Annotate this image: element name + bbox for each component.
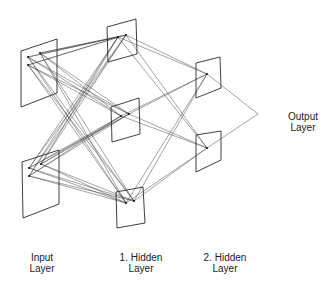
connection-line <box>207 114 258 148</box>
connection-line <box>29 114 129 176</box>
connection-line <box>29 116 121 168</box>
connection-line <box>126 74 207 203</box>
neural-network-diagram <box>0 0 328 289</box>
input-node <box>28 167 30 169</box>
hidden2-layer-label: 2. Hidden Layer <box>195 252 255 274</box>
input-node <box>28 175 30 177</box>
hidden2-node <box>206 73 208 75</box>
input-layer-label-line2: Layer <box>12 263 72 274</box>
input-layer-label: Input Layer <box>12 252 72 274</box>
output-layer-label: Output Layer <box>273 111 328 133</box>
input-node <box>39 52 41 54</box>
connection-line <box>28 65 126 203</box>
hidden1-layer-label: 1. Hidden Layer <box>111 252 171 274</box>
connection-line <box>126 148 207 203</box>
connection-line <box>41 35 126 164</box>
hidden1-node <box>125 34 127 36</box>
hidden1-node <box>120 115 122 117</box>
connection-line <box>28 35 126 65</box>
hidden2-node <box>206 147 208 149</box>
connection-line <box>126 35 207 74</box>
hidden2-layer-label-line1: 2. Hidden <box>195 252 255 263</box>
hidden1-node <box>128 113 130 115</box>
input-node <box>27 56 29 58</box>
hidden1-layer-label-line2: Layer <box>111 263 171 274</box>
connection-line <box>29 35 126 168</box>
connection-line <box>40 53 121 116</box>
hidden1-layer-label-line1: 1. Hidden <box>111 252 171 263</box>
output-layer-label-line1: Output <box>273 111 328 122</box>
connection-line <box>126 35 207 148</box>
connection-lines <box>28 35 258 203</box>
connection-line <box>207 74 258 114</box>
hidden2-layer-label-line2: Layer <box>195 263 255 274</box>
connection-line <box>29 176 126 203</box>
connection-line <box>28 65 134 201</box>
input-node <box>40 163 42 165</box>
connection-line <box>29 168 126 203</box>
connection-line <box>29 168 134 201</box>
connection-line <box>40 53 129 114</box>
hidden1-node <box>117 36 119 38</box>
hidden1-node <box>125 202 127 204</box>
connection-line <box>129 114 207 148</box>
hidden1-node <box>133 200 135 202</box>
hidden2-panel <box>196 131 221 172</box>
input-layer-label-line1: Input <box>12 252 72 263</box>
connection-line <box>41 116 121 164</box>
input-node <box>27 64 29 66</box>
output-layer-label-line2: Layer <box>273 122 328 133</box>
connection-line <box>40 53 134 201</box>
connection-line <box>28 57 129 114</box>
